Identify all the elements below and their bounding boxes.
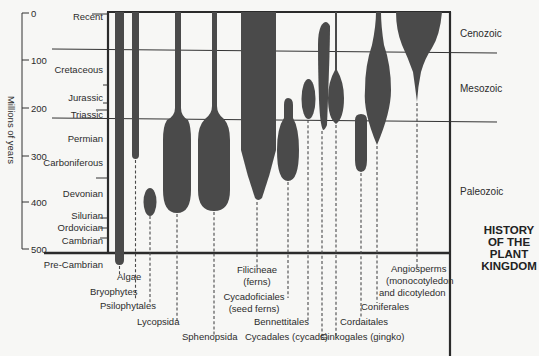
period-label: Jurassic [68, 92, 103, 103]
angiosperms-shape [396, 12, 442, 102]
group-label: Bryophytes [90, 286, 138, 297]
time-axis: 0100200300400500 Millions of years [6, 8, 47, 255]
cycadales-shape [318, 22, 330, 130]
period-label: Cretaceous [54, 64, 103, 75]
group-label: (seed ferns) [229, 303, 280, 314]
group-label: Sphenopsida [182, 331, 238, 342]
period-label: Permian [68, 133, 103, 144]
bennettitales-shape [302, 79, 316, 119]
period-label: Carboniferous [43, 157, 103, 168]
period-label: Cambrian [62, 235, 103, 246]
group-label: Algae [117, 271, 141, 282]
group-label: Cycadoficiales [223, 291, 284, 302]
title-line: HISTORY [484, 224, 535, 236]
coniferales-shape [365, 12, 391, 145]
period-label: Ordovician [58, 222, 103, 233]
diagram-title: HISTORYOF THEPLANTKINGDOM [481, 224, 537, 272]
axis-tick-label: 100 [31, 55, 47, 66]
title-line: OF THE [488, 236, 530, 248]
period-label: Pre-Cambrian [44, 259, 103, 270]
era-label: Mesozoic [460, 83, 502, 94]
axis-tick-label: 200 [31, 103, 47, 114]
period-label: Devonian [63, 188, 103, 199]
cycadofiliciales-shape [277, 98, 299, 181]
group-label: Lycopsida [137, 316, 180, 327]
group-label: Cordaitales [340, 316, 388, 327]
axis-tick-label: 400 [31, 197, 47, 208]
group-label: (monocotyledon [386, 275, 454, 286]
ginkgoales-shape [328, 12, 344, 124]
era-label: Paleozoic [460, 186, 503, 197]
title-line: PLANT [490, 248, 528, 260]
sphenopsida-shape [198, 12, 230, 211]
algae-shape [115, 12, 124, 265]
group-label: and dicotyledon [379, 287, 446, 298]
group-label: Cycadales (cycads) [245, 331, 328, 342]
psilophytales-shape [144, 188, 157, 216]
plant-kingdom-diagram: 0100200300400500 Millions of years Recen… [0, 0, 539, 356]
group-label: Filicineae [237, 264, 277, 275]
era-label: Cenozoic [460, 28, 502, 39]
filicineae-shape [241, 12, 276, 200]
group-label: Bennettitales [254, 316, 309, 327]
axis-tick-label: 0 [31, 8, 36, 19]
bryophytes-shape [132, 12, 139, 159]
group-labels: AlgaeBryophytesPsilophytalesLycopsidaSph… [90, 263, 454, 342]
lycopsida-shape [163, 12, 191, 213]
cordaitales-shape [355, 114, 367, 172]
group-label: (ferns) [243, 276, 270, 287]
group-label: Angiosperms [391, 263, 447, 274]
period-label: Silurian [71, 210, 103, 221]
group-label: Psilophytales [100, 300, 156, 311]
title-line: KINGDOM [481, 260, 537, 272]
axis-label: Millions of years [6, 96, 17, 164]
period-label: Recent [73, 11, 103, 22]
group-label: Ginkogales (gingko) [320, 331, 405, 342]
group-label: Coniferales [361, 301, 409, 312]
